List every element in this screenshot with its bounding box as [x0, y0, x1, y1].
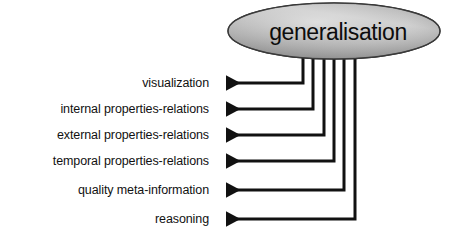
root-node-ellipse [228, 3, 440, 59]
diagram-canvas [0, 0, 452, 243]
connector-reasoning [226, 56, 355, 219]
connector-external-properties-relations [226, 58, 324, 135]
generalisation-diagram: generalisation visualization internal pr… [0, 0, 452, 243]
connector-quality-meta-information [226, 58, 344, 190]
connector-group [226, 52, 355, 219]
